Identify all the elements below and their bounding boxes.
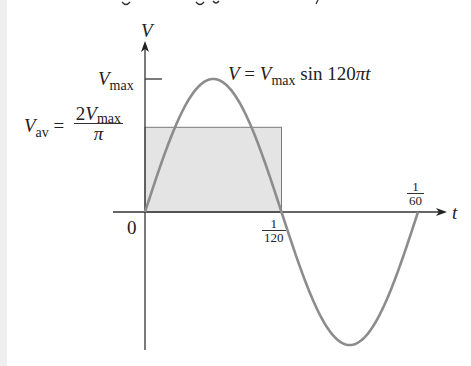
vav-eq: = [49, 115, 69, 136]
vav-sub: av [36, 125, 49, 140]
equation-label: V = Vmax sin 120πt [228, 64, 371, 83]
vav-num-sub: max [97, 111, 121, 126]
vav-numerator: 2Vmax [74, 104, 123, 124]
vmax-sub: max [110, 78, 134, 93]
t-axis-label: t [452, 203, 457, 222]
equation-pi: π [356, 63, 366, 84]
vav-v: V [24, 115, 36, 136]
vav-fraction: 2Vmax π [74, 104, 123, 143]
t-half-den: 120 [262, 231, 286, 244]
t-half-num: 1 [262, 217, 286, 231]
average-value-rectangle [145, 127, 282, 212]
v-axis-label: V [141, 21, 153, 40]
t-full-num: 1 [407, 180, 424, 194]
vav-num-v: V [85, 103, 97, 124]
vav-num-coef: 2 [76, 103, 86, 124]
t-full-den: 60 [407, 194, 424, 207]
equation-sub: max [271, 73, 295, 88]
vav-denominator: π [74, 124, 123, 143]
vmax-tick-label: Vmax [98, 69, 134, 88]
cutoff-text-fragments [122, 0, 318, 5]
origin-label: 0 [127, 218, 137, 237]
t-half-fraction: 1 120 [262, 217, 286, 244]
equation-t: t [365, 63, 370, 84]
vmax-v: V [98, 68, 110, 89]
equation-v: V [260, 63, 272, 84]
average-value-label: Vav = 2Vmax π [24, 104, 123, 143]
sine-wave-plot [0, 0, 471, 366]
equation-eq: = [240, 63, 260, 84]
t-half-period-label: 1 120 [262, 217, 286, 244]
equation-rest: sin 120 [296, 63, 356, 84]
t-full-period-label: 1 60 [407, 180, 424, 207]
t-full-fraction: 1 60 [407, 180, 424, 207]
equation-lhs: V [228, 63, 240, 84]
